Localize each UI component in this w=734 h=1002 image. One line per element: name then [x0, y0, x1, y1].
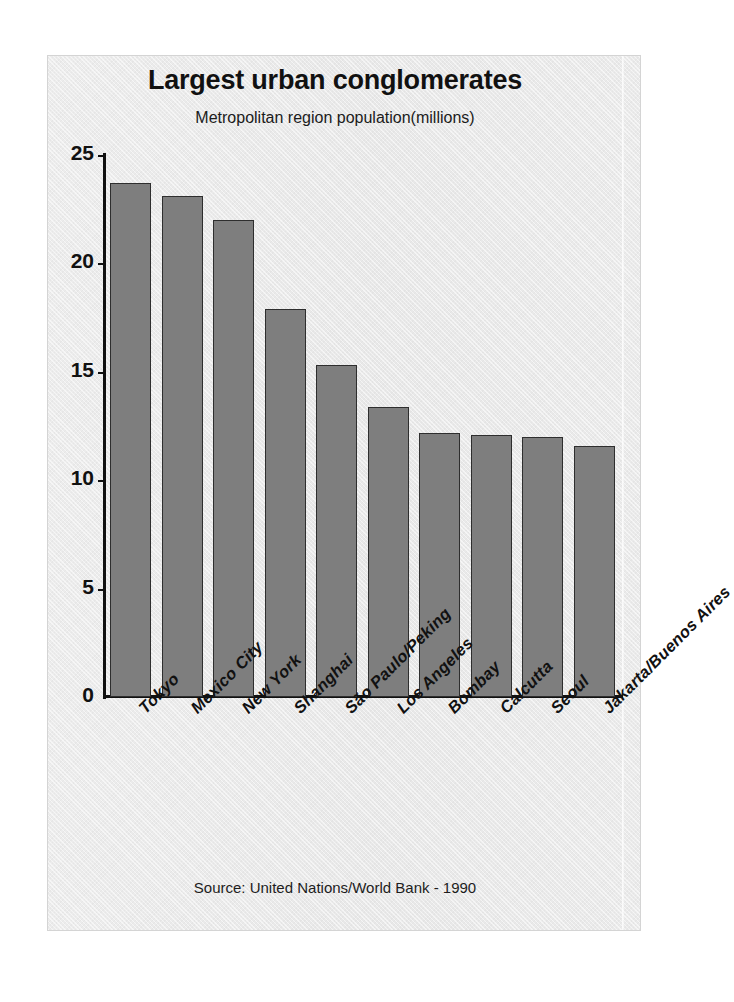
bar: [522, 437, 563, 697]
y-tick-label-5: 5: [48, 575, 94, 599]
source-note: Source: United Nations/World Bank - 1990: [48, 879, 622, 896]
y-tick-label-25: 25: [48, 141, 94, 165]
bar-series: [106, 155, 620, 697]
y-tick-mark-10: [98, 480, 104, 482]
bar: [574, 446, 615, 697]
bar: [316, 365, 357, 697]
y-tick-mark-15: [98, 372, 104, 374]
scanned-page-panel: Largest urban conglomerates Metropolitan…: [48, 56, 640, 930]
bar: [162, 196, 203, 697]
bar: [110, 183, 151, 697]
y-tick-label-0: 0: [48, 683, 94, 707]
y-tick-mark-20: [98, 263, 104, 265]
bar: [419, 433, 460, 697]
y-tick-label-10: 10: [48, 466, 94, 490]
y-tick-label-20: 20: [48, 249, 94, 273]
bar: [213, 220, 254, 697]
bar: [471, 435, 512, 697]
y-tick-mark-25: [98, 155, 104, 157]
y-tick-mark-5: [98, 589, 104, 591]
plot-area: 2520151050: [48, 56, 640, 930]
y-tick-label-15: 15: [48, 358, 94, 382]
bar: [265, 309, 306, 697]
bar: [368, 407, 409, 698]
